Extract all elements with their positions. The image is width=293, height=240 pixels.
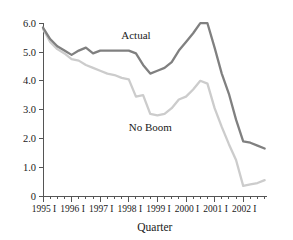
series-layer [43, 23, 265, 186]
x-tick-label: 2001 I [203, 204, 228, 214]
y-tick-label: 1.0 [23, 162, 36, 173]
x-tick-label: 1999 I [146, 204, 171, 214]
x-tick-label: 1998 I [118, 204, 143, 214]
series-label-no-boom: No Boom [129, 121, 173, 133]
line-chart: 01.02.03.04.05.06.0 1995 I1996 I1997 I19… [0, 0, 293, 240]
y-tick-label: 5.0 [23, 47, 36, 58]
x-tick-label: 1996 I [60, 204, 85, 214]
y-axis: 01.02.03.04.05.06.0 [23, 18, 43, 202]
x-axis-title: Quarter [137, 221, 172, 233]
y-tick-label: 3.0 [23, 104, 36, 115]
x-tick-label: 1995 I [32, 204, 57, 214]
y-tick-label: 4.0 [23, 75, 36, 86]
series-label-actual: Actual [121, 29, 150, 41]
x-tick-label: 1997 I [89, 204, 114, 214]
x-axis: 1995 I1996 I1997 I1998 I1999 I2000 I2001… [32, 196, 267, 214]
x-tick-label: 2000 I [175, 204, 200, 214]
y-tick-label: 0 [31, 191, 36, 202]
y-tick-label: 6.0 [23, 18, 36, 29]
chart-plot-area: 01.02.03.04.05.06.0 1995 I1996 I1997 I19… [0, 0, 293, 240]
y-tick-label: 2.0 [23, 133, 36, 144]
x-tick-label: 2002 I [232, 204, 257, 214]
